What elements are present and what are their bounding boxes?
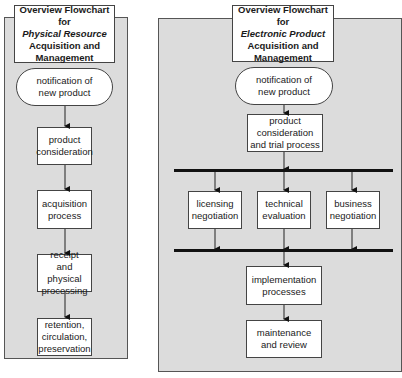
connector-arrows [0, 0, 401, 378]
